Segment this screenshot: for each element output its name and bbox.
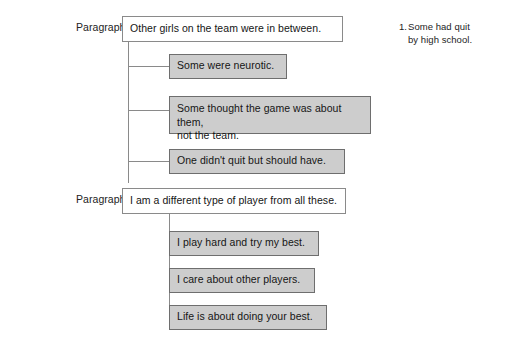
paragraph-6-main-box: Other girls on the team were in between. bbox=[122, 16, 343, 42]
paragraph-6-child-box-1: Some were neurotic. bbox=[169, 54, 287, 79]
paragraph-6-child-text-3: One didn't quit but should have. bbox=[177, 154, 326, 168]
paragraph-7-child-box-2: I care about other players. bbox=[169, 268, 315, 293]
paragraph-7-main-box: I am a different type of player from all… bbox=[122, 188, 346, 214]
paragraph-6-child-box-2: Some thought the game was about them, no… bbox=[169, 96, 371, 134]
outline-diagram: Paragraph 6 Other girls on the team were… bbox=[0, 0, 506, 359]
paragraph-7-child-text-2: I care about other players. bbox=[177, 273, 300, 287]
annotation-line-1: Some had quit bbox=[399, 21, 472, 34]
paragraph-6-child-text-2-line-2: not the team. bbox=[177, 129, 363, 143]
paragraph-6-child-text-1: Some were neurotic. bbox=[177, 59, 274, 73]
paragraph-7-spine-line bbox=[169, 214, 170, 317]
paragraph-6-connector-3 bbox=[128, 161, 169, 162]
paragraph-7-child-text-3: Life is about doing your best. bbox=[177, 310, 313, 324]
paragraph-6-connector-2 bbox=[128, 110, 169, 111]
annotation-line-2: by high school. bbox=[399, 34, 472, 47]
paragraph-6-main-text: Other girls on the team were in between. bbox=[130, 22, 321, 36]
paragraph-7-main-text: I am a different type of player from all… bbox=[130, 194, 337, 208]
paragraph-6-child-box-3: One didn't quit but should have. bbox=[169, 149, 345, 174]
annotation-number: 1. bbox=[399, 21, 407, 34]
side-annotation: 1. Some had quit by high school. bbox=[399, 21, 472, 46]
paragraph-6-child-text-2: Some thought the game was about them, no… bbox=[177, 102, 363, 143]
paragraph-6-child-text-2-line-1: Some thought the game was about them, bbox=[177, 102, 363, 129]
paragraph-6-connector-1 bbox=[128, 66, 169, 67]
paragraph-7-child-box-3: Life is about doing your best. bbox=[169, 305, 327, 330]
paragraph-7-child-text-1: I play hard and try my best. bbox=[177, 236, 305, 250]
paragraph-7-child-box-1: I play hard and try my best. bbox=[169, 231, 319, 256]
